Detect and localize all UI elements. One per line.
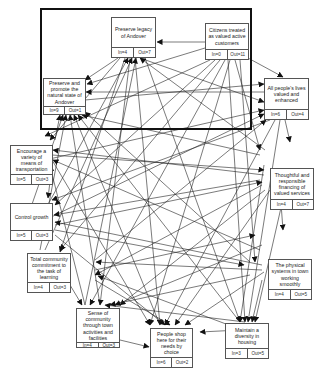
- in-count: In=4: [112, 48, 133, 57]
- node-label: People shop here for their needs by choi…: [151, 329, 192, 357]
- node-physical-systems[interactable]: The physical systems in town working smo…: [268, 259, 312, 300]
- out-count: Out=5: [290, 290, 312, 299]
- node-label: Maintain a diversity in housing: [226, 324, 268, 348]
- node-label: Thoughtful and responsible financing of …: [271, 169, 313, 199]
- in-count: In=6: [151, 358, 171, 367]
- in-count: In=9: [44, 107, 64, 114]
- node-transportation[interactable]: Encourage a variety of means of transpor…: [10, 145, 53, 185]
- out-count: Out=3: [49, 283, 71, 292]
- node-label: Preserve and promote the natural state o…: [44, 79, 85, 106]
- in-count: In=4: [269, 290, 290, 299]
- in-count: In=5: [11, 175, 31, 184]
- in-count: In=4: [28, 283, 49, 292]
- node-label: Control growth: [11, 204, 52, 230]
- in-count: In=4: [77, 343, 98, 348]
- out-count: Out=4: [286, 110, 308, 119]
- out-count: Out=3: [98, 343, 120, 348]
- node-financing[interactable]: Thoughtful and responsible financing of …: [270, 168, 314, 210]
- node-peoples-lives[interactable]: All people's lives valued and enhanced I…: [264, 78, 309, 120]
- out-count: Out=1: [64, 107, 85, 114]
- node-learning[interactable]: Total community commitment to the task o…: [27, 253, 71, 293]
- node-label: Encourage a variety of means of transpor…: [11, 146, 52, 174]
- node-label: All people's lives valued and enhanced: [265, 79, 308, 109]
- out-count: Out=7: [133, 48, 155, 57]
- node-label: Sense of community through town activiti…: [77, 309, 119, 342]
- out-count: Out=7: [292, 200, 314, 209]
- node-label: Total community commitment to the task o…: [28, 254, 70, 282]
- in-count: In=3: [226, 349, 247, 358]
- in-count: In=6: [265, 110, 286, 119]
- node-control-growth[interactable]: Control growth In=5Out=3: [10, 203, 53, 241]
- node-label: Preserve legacy of Andover: [112, 18, 155, 47]
- in-count: In=5: [11, 231, 31, 240]
- out-count: Out=3: [31, 175, 52, 184]
- out-count: Out=2: [171, 358, 192, 367]
- in-count: In=4: [271, 200, 292, 209]
- node-people-shop[interactable]: People shop here for their needs by choi…: [150, 328, 193, 368]
- node-sense-of-community[interactable]: Sense of community through town activiti…: [76, 308, 120, 348]
- node-label: Citizens treated as valued active custom…: [206, 24, 248, 49]
- node-housing-diversity[interactable]: Maintain a diversity in housing In=3Out=…: [225, 323, 269, 359]
- out-count: Out=3: [31, 231, 52, 240]
- node-natural-state[interactable]: Preserve and promote the natural state o…: [43, 78, 86, 115]
- out-count: Out=11: [227, 50, 249, 59]
- out-count: Out=5: [247, 349, 269, 358]
- in-count: In=0: [206, 50, 227, 59]
- node-label: The physical systems in town working smo…: [269, 260, 311, 289]
- node-preserve-legacy[interactable]: Preserve legacy of Andover In=4Out=7: [111, 17, 156, 58]
- node-citizens-customers[interactable]: Citizens treated as valued active custom…: [205, 23, 249, 60]
